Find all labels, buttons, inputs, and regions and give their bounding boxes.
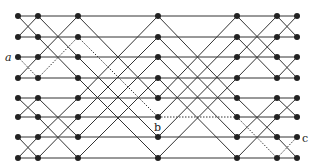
node [75,75,81,81]
node [234,134,240,140]
node [155,75,161,81]
node [234,54,240,60]
node [35,34,41,40]
node [274,155,280,161]
node [294,155,300,161]
node [155,13,161,19]
node [155,155,161,161]
node [75,34,81,40]
node [274,134,280,140]
node [75,54,81,60]
node [294,75,300,81]
node [155,54,161,60]
node [294,114,300,120]
node [155,95,161,101]
label-b: b [154,121,161,134]
node [35,54,41,60]
node [75,13,81,19]
node [155,34,161,40]
node [294,34,300,40]
node [15,34,21,40]
node [15,155,21,161]
node [15,13,21,19]
node [15,134,21,140]
node [35,13,41,19]
node [234,95,240,101]
node [294,134,300,140]
label-a: a [5,51,12,64]
node [274,13,280,19]
node [75,95,81,101]
node [35,155,41,161]
node [75,155,81,161]
node [75,114,81,120]
node [274,95,280,101]
node [155,134,161,140]
node [35,134,41,140]
node [15,114,21,120]
label-c: c [302,132,308,145]
node [234,155,240,161]
node [294,54,300,60]
node [234,75,240,81]
node [35,75,41,81]
node [15,54,21,60]
node [75,134,81,140]
node [274,114,280,120]
node [274,54,280,60]
network-nodes [15,13,300,161]
node [234,13,240,19]
node [274,75,280,81]
node [155,114,161,120]
node [234,114,240,120]
butterfly-network-diagram: a b c [0,0,314,168]
node [15,95,21,101]
node [35,95,41,101]
node [294,13,300,19]
node [35,114,41,120]
node [15,75,21,81]
node [294,95,300,101]
node [234,34,240,40]
node [274,34,280,40]
